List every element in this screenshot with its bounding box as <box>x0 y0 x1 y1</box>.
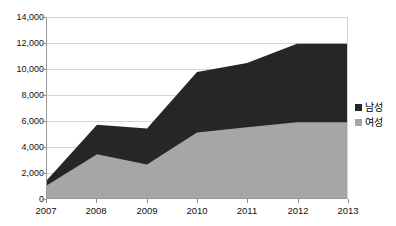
chart-title-cropped <box>0 0 396 5</box>
square-swatch-icon <box>355 119 362 126</box>
x-axis-tick <box>298 199 299 203</box>
legend-label: 여성 <box>365 117 383 128</box>
legend-item-male: 남성 <box>355 100 396 115</box>
x-axis-label: 2012 <box>276 206 320 216</box>
y-axis-label: 0 <box>2 195 44 204</box>
x-axis-label: 2011 <box>225 206 269 216</box>
legend-item-female: 여성 <box>355 115 396 130</box>
x-axis-label: 2007 <box>24 206 68 216</box>
stacked-area-series <box>47 18 347 198</box>
y-axis-label: 4,000 <box>2 143 44 152</box>
x-axis-label: 2009 <box>125 206 169 216</box>
x-axis-tick <box>147 199 148 203</box>
y-axis-label: 6,000 <box>2 117 44 126</box>
y-axis: 14,000 12,000 10,000 8,000 6,000 4,000 2… <box>0 0 44 226</box>
y-axis-label: 8,000 <box>2 91 44 100</box>
x-axis-tick <box>247 199 248 203</box>
x-axis-label: 2013 <box>326 206 370 216</box>
y-axis-label: 12,000 <box>2 39 44 48</box>
x-axis-label: 2010 <box>175 206 219 216</box>
y-axis-label: 10,000 <box>2 65 44 74</box>
y-axis-label: 14,000 <box>2 13 44 22</box>
x-axis-tick <box>197 199 198 203</box>
chart-legend: 남성 여성 <box>355 100 396 130</box>
plot-area <box>46 17 348 199</box>
square-swatch-icon <box>355 104 362 111</box>
x-axis-label: 2008 <box>74 206 118 216</box>
legend-label: 남성 <box>365 102 383 113</box>
y-axis-label: 2,000 <box>2 169 44 178</box>
x-axis-tick <box>46 199 47 203</box>
x-axis-tick <box>348 199 349 203</box>
x-axis-tick <box>96 199 97 203</box>
area-chart: 14,000 12,000 10,000 8,000 6,000 4,000 2… <box>0 0 396 226</box>
